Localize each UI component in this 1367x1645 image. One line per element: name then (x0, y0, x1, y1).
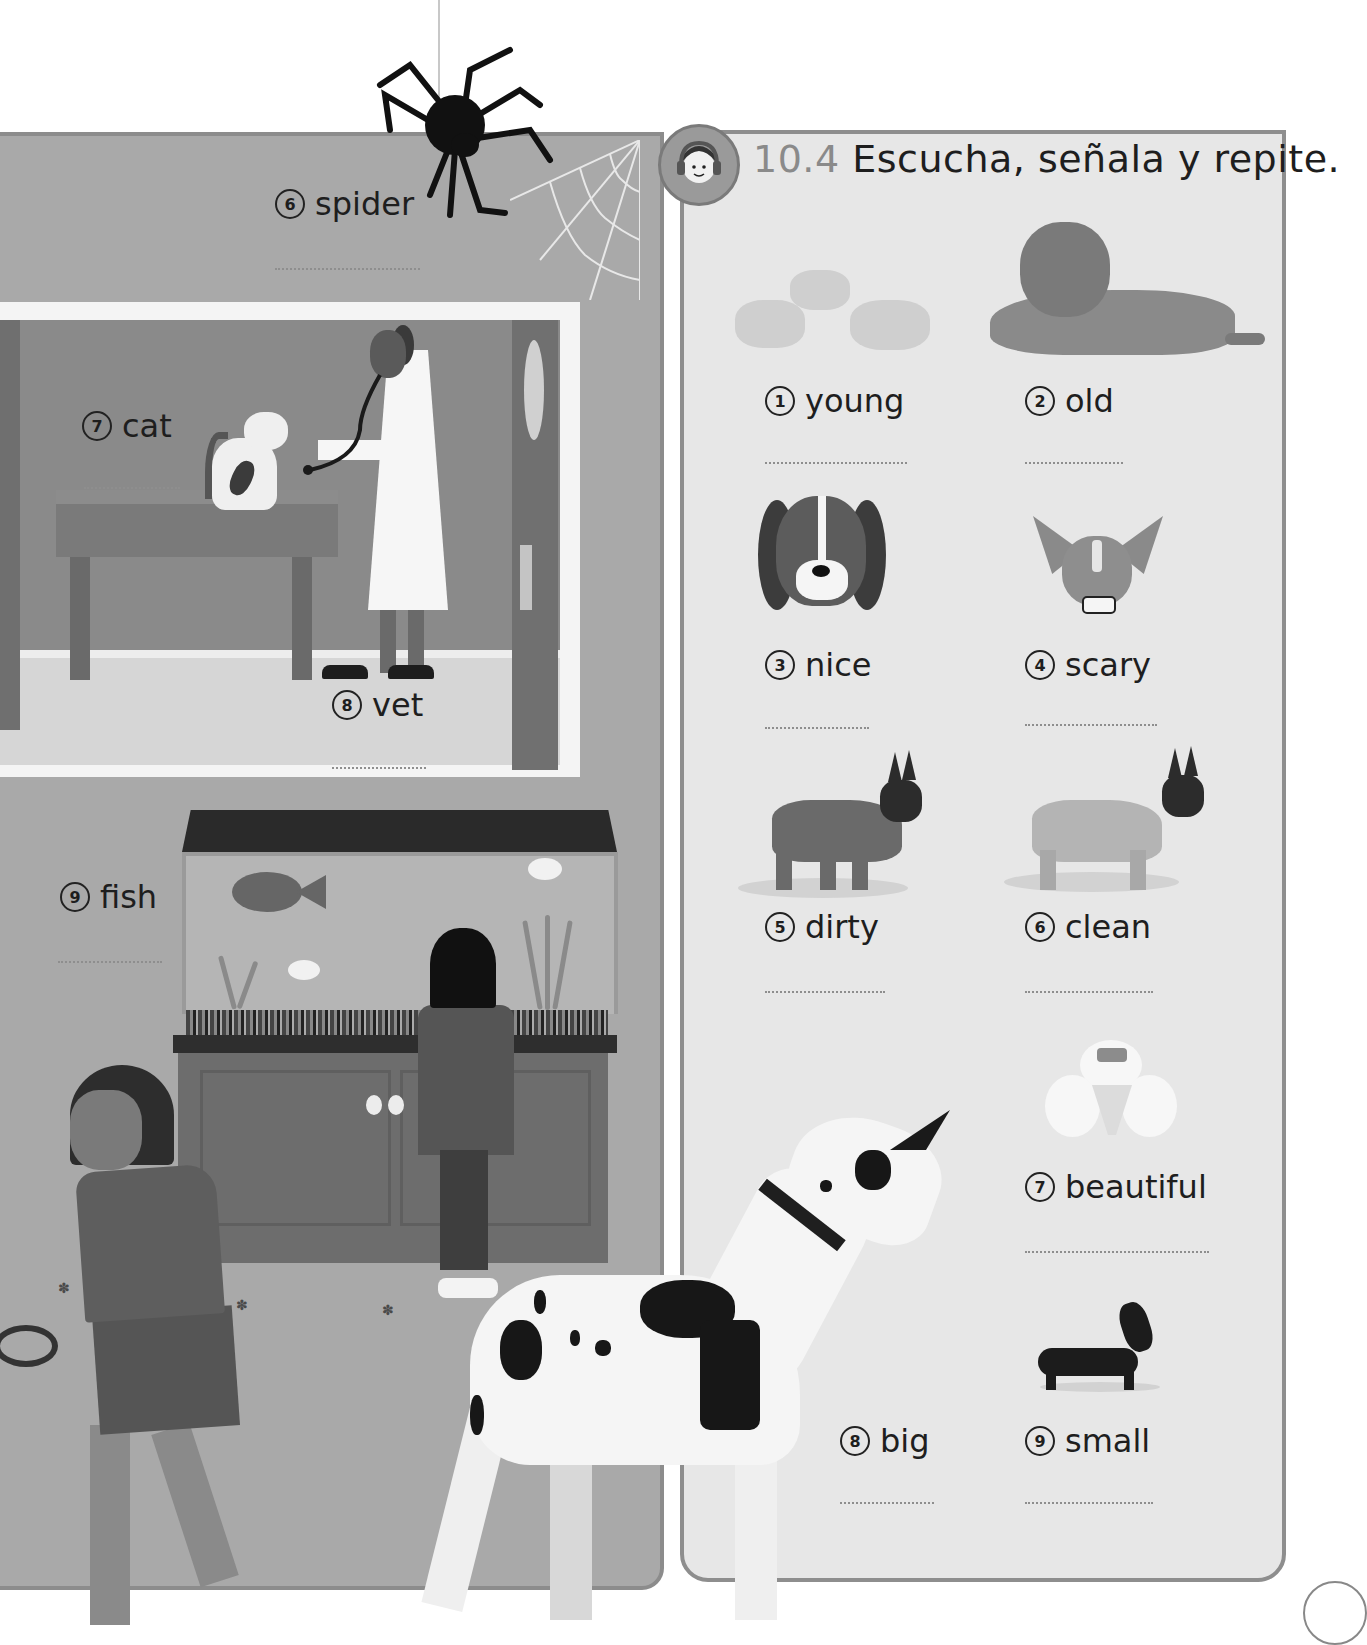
dog-spot (595, 1340, 611, 1356)
chihuahua-teeth (1082, 596, 1116, 614)
cabinet-door (200, 1070, 391, 1226)
answer-line-young[interactable] (765, 462, 907, 464)
answer-line-big[interactable] (840, 1502, 934, 1504)
beagle-nose (812, 565, 830, 577)
answer-line-nice[interactable] (765, 727, 869, 729)
answer-line-beautiful[interactable] (1025, 1251, 1209, 1253)
answer-line-small[interactable] (1025, 1502, 1153, 1504)
pawprint-icon: ✽ (382, 1302, 394, 1318)
shadow (1040, 1382, 1160, 1392)
vocab-item-dirty: 5 dirty (765, 908, 879, 946)
door-push-plate (520, 545, 532, 610)
item-number-badge: 6 (1025, 912, 1055, 942)
vocab-item-big: 8 big (840, 1422, 930, 1460)
item-number-badge: 2 (1025, 386, 1055, 416)
aquarium-plant (545, 915, 550, 1010)
dachshund-leg (1046, 1372, 1056, 1390)
fish-illustration (288, 960, 320, 980)
listening-activity-badge (658, 124, 740, 206)
frenchie-leg (1040, 850, 1056, 890)
vocab-item-beautiful: 7 beautiful (1025, 1168, 1207, 1206)
frenchie-leg (852, 850, 868, 890)
walking-girl (75, 1163, 225, 1322)
dachshund-leg (1124, 1372, 1134, 1390)
beagle-blaze (818, 496, 826, 562)
fish-illustration (528, 858, 562, 880)
vocab-word: vet (372, 686, 423, 724)
poodle-bow (1097, 1048, 1127, 1062)
answer-line-vet[interactable] (332, 767, 426, 769)
puppy-illustration (790, 270, 850, 310)
item-number-badge: 7 (1025, 1172, 1055, 1202)
aquarium-lid (182, 810, 617, 852)
pawprint-icon: ✽ (58, 1280, 70, 1296)
frenchie-leg (776, 850, 792, 890)
item-number-badge: 7 (82, 411, 112, 441)
answer-line-dirty[interactable] (765, 991, 885, 993)
vocab-word: spider (315, 185, 414, 223)
item-number-badge: 4 (1025, 650, 1055, 680)
stethoscope-icon (300, 370, 390, 480)
girl-face (70, 1090, 142, 1170)
item-number-badge: 6 (275, 189, 305, 219)
answer-line-old[interactable] (1025, 462, 1123, 464)
item-number-badge: 1 (765, 386, 795, 416)
vet-shoe (388, 665, 434, 679)
exam-table-surface (56, 490, 338, 504)
girl-watching-aquarium (418, 1005, 514, 1155)
vocab-item-old: 2 old (1025, 382, 1114, 420)
cat-head (244, 412, 288, 450)
answer-line-fish[interactable] (58, 961, 162, 963)
vocab-word: old (1065, 382, 1114, 420)
vocab-word: fish (100, 878, 157, 916)
vocab-item-nice: 3 nice (765, 646, 871, 684)
cobweb-icon (510, 140, 640, 300)
item-number-badge: 5 (765, 912, 795, 942)
old-dog-tail (1225, 333, 1265, 345)
dog-spot (820, 1180, 832, 1192)
girl-shoes (438, 1278, 498, 1298)
answer-line-clean[interactable] (1025, 991, 1153, 993)
answer-line-cat[interactable] (84, 487, 180, 489)
vocab-item-clean: 6 clean (1025, 908, 1151, 946)
cabinet-knob (366, 1095, 382, 1115)
vocab-word: small (1065, 1422, 1150, 1460)
vocab-word: nice (805, 646, 871, 684)
door-left (0, 320, 20, 730)
dog-spot (500, 1320, 542, 1380)
vocab-word: dirty (805, 908, 879, 946)
answer-line-spider[interactable] (275, 268, 420, 270)
aquarium-gravel (186, 1010, 608, 1035)
shadow (1004, 872, 1179, 892)
answer-line-scary[interactable] (1025, 724, 1157, 726)
item-number-badge: 3 (765, 650, 795, 680)
dog-spot (700, 1320, 760, 1430)
girl-legs (440, 1150, 488, 1270)
headphones-child-icon (671, 137, 727, 193)
fish-illustration (232, 872, 302, 912)
pawprint-icon: ✽ (236, 1297, 248, 1313)
vocab-word: cat (122, 407, 172, 445)
cabinet-knob (388, 1095, 404, 1115)
table-leg (70, 557, 90, 680)
vocab-word: big (880, 1422, 930, 1460)
table-leg (292, 557, 312, 680)
girl-shorts (92, 1305, 240, 1434)
door-window (524, 340, 544, 440)
frenchie-head (880, 780, 922, 822)
activity-instruction: Escucha, señala y repite. (852, 137, 1340, 181)
vet-leg (380, 608, 396, 673)
frenchie-leg (820, 850, 836, 890)
vocab-item-small: 9 small (1025, 1422, 1150, 1460)
aquarium-base (173, 1035, 617, 1053)
vocab-word: clean (1065, 908, 1151, 946)
vocab-item-fish: 9 fish (60, 878, 157, 916)
chihuahua-blaze (1092, 540, 1102, 572)
exam-table (56, 495, 338, 557)
vocab-item-young: 1 young (765, 382, 904, 420)
item-number-badge: 8 (840, 1426, 870, 1456)
vet-leg (408, 608, 424, 673)
puppy-illustration (850, 300, 930, 350)
vocab-item-spider: 6 spider (275, 185, 414, 223)
vocab-word: beautiful (1065, 1168, 1207, 1206)
